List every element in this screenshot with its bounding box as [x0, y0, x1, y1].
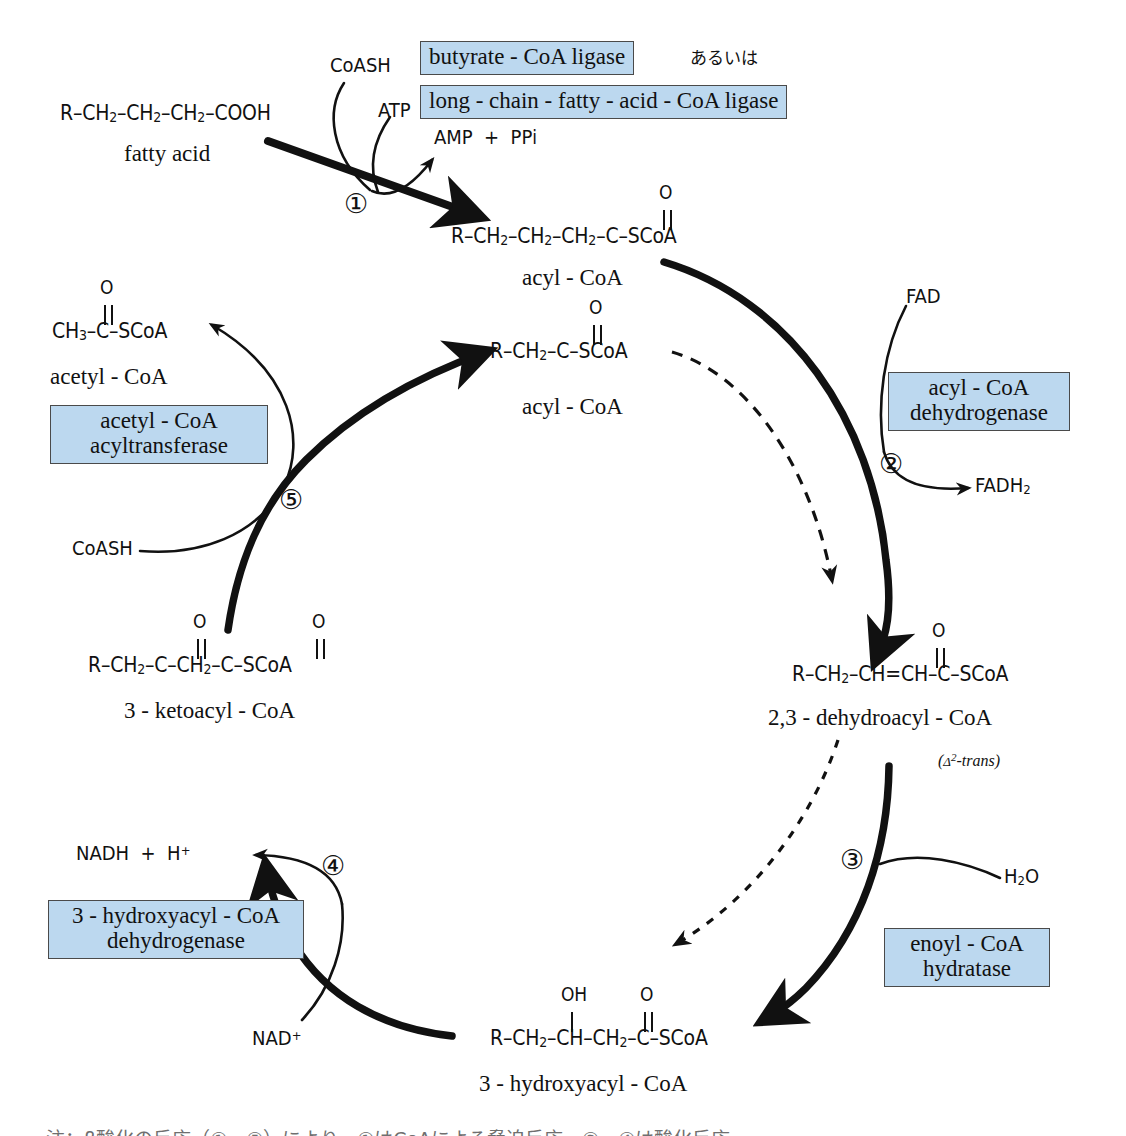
cycle-arc-step5	[228, 352, 486, 630]
dehydroacylcoa-carbonyl-o: O	[932, 621, 945, 640]
enzyme-box-hydroxyacyl-coa-dehydrogenase[interactable]: 3 - hydroxyacyl - CoA dehydrogenase	[48, 900, 304, 959]
enzyme-box-long-chain-fatty-acid-coa-ligase[interactable]: long - chain - fatty - acid - CoA ligase	[420, 85, 787, 119]
acylcoa-top-carbonyl-o: O	[659, 183, 672, 202]
figure-caption: 注：β酸化の反応（①～⑤）により、①はCoAによる脅迫反応。②、④は酸化反応。	[46, 1124, 1086, 1136]
coash-left-label: CoASH	[72, 538, 133, 558]
enzyme-label-enoyl-coa-hydratase-line1: enoyl - CoA	[893, 932, 1041, 957]
fatty-acid-label: fatty acid	[124, 142, 210, 165]
acetylcoa-label: acetyl - CoA	[50, 365, 168, 388]
nadh-h-label: NADH + H+	[76, 843, 190, 863]
step-number-3: ③	[840, 846, 864, 873]
enzyme-box-acetyl-coa-acyltransferase[interactable]: acetyl - CoA acyltransferase	[50, 405, 268, 464]
fadh2-label: FADH2	[975, 475, 1031, 496]
enzyme-label-acetyl-coa-acyltransferase-line2: acyltransferase	[59, 434, 259, 459]
acylcoa-short-formula: R–CH2–C–SCoA	[490, 341, 627, 362]
enzyme-label-hydroxyacyl-coa-dehydrogenase-line1: 3 - hydroxyacyl - CoA	[57, 904, 295, 929]
h2o-label: H2O	[1004, 866, 1039, 887]
acylcoa-short-label: acyl - CoA	[522, 395, 623, 418]
step-number-1: ①	[344, 190, 368, 217]
hydroxyacylcoa-carbonyl-o: O	[640, 985, 653, 1004]
cycle-arc-step3	[764, 766, 889, 1020]
acylcoa-top-formula: R–CH2–CH2–CH2–C–SCoA	[451, 226, 677, 247]
dashed-shortcut-arrow-lower	[676, 740, 838, 944]
figure-canvas: R–CH2–CH2–CH2–COOH fatty acid CoASH ATP …	[0, 0, 1126, 1136]
dehydroacylcoa-label: 2,3 - dehydroacyl - CoA	[768, 706, 992, 729]
enzyme-box-enoyl-coa-hydratase[interactable]: enoyl - CoA hydratase	[884, 928, 1050, 987]
step-number-2: ②	[879, 450, 903, 477]
atp-label: ATP	[378, 100, 411, 120]
enzyme-label-enoyl-coa-hydratase-line2: hydratase	[893, 957, 1041, 982]
hydroxyacylcoa-hydroxyl-label: OH	[561, 985, 587, 1004]
enzyme-label-long-chain-fatty-acid-coa-ligase: long - chain - fatty - acid - CoA ligase	[429, 88, 778, 113]
ketoacylcoa-carbonyl-o-2: O	[312, 612, 325, 631]
amp-ppi-label: AMP + PPi	[434, 127, 537, 147]
step-number-5: ⑤	[279, 486, 303, 513]
dashed-shortcut-arrow-upper	[672, 352, 832, 580]
enzyme-label-acetyl-coa-acyltransferase-line1: acetyl - CoA	[59, 409, 259, 434]
step-number-4: ④	[321, 852, 345, 879]
fatty-acid-formula: R–CH2–CH2–CH2–COOH	[60, 103, 271, 124]
fad-label: FAD	[906, 286, 941, 306]
coash-top-label: CoASH	[330, 55, 391, 75]
enzyme-label-acyl-coa-dehydrogenase-line2: dehydrogenase	[897, 401, 1061, 426]
acetylcoa-carbonyl-o: O	[100, 278, 113, 297]
enzyme-label-acyl-coa-dehydrogenase-line1: acyl - CoA	[897, 376, 1061, 401]
nad-plus-label: NAD+	[252, 1028, 301, 1048]
ketoacylcoa-label: 3 - ketoacyl - CoA	[124, 699, 295, 722]
h2o-input-curve	[880, 858, 1000, 878]
ketoacylcoa-carbonyl-o-1: O	[193, 612, 206, 631]
acylcoa-short-carbonyl-o: O	[589, 298, 602, 317]
acetylcoa-formula: CH3–C–SCoA	[52, 321, 167, 342]
hydroxyacylcoa-formula: R–CH2–CH–CH2–C–SCoA	[490, 1028, 708, 1049]
dehydroacylcoa-isomer-note: (Δ2-trans)	[938, 752, 1000, 769]
enzyme-label-hydroxyacyl-coa-dehydrogenase-line2: dehydrogenase	[57, 929, 295, 954]
dehydroacylcoa-formula: R–CH2–CH=CH–C–SCoA	[792, 664, 1008, 685]
ketoacylcoa-formula: R–CH2–C–CH2–C–SCoA	[88, 655, 292, 676]
step1-entry-arrow	[268, 141, 478, 216]
enzyme-label-butyrate-coa-ligase: butyrate - CoA ligase	[429, 44, 625, 69]
enzyme-box-acyl-coa-dehydrogenase[interactable]: acyl - CoA dehydrogenase	[888, 372, 1070, 431]
acylcoa-top-label: acyl - CoA	[522, 266, 623, 289]
enzyme-box-butyrate-coa-ligase[interactable]: butyrate - CoA ligase	[420, 41, 634, 75]
cycle-arc-step2	[664, 262, 889, 660]
hydroxyacylcoa-label: 3 - hydroxyacyl - CoA	[479, 1072, 687, 1095]
connector-japanese-text: あるいは	[690, 50, 758, 67]
